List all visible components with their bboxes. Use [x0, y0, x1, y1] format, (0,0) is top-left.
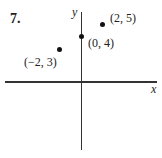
problem-number: 7.	[10, 11, 21, 27]
y-axis-label: y	[72, 5, 77, 20]
y-axis	[81, 12, 83, 150]
point-label: (−2, 3)	[24, 55, 57, 70]
data-point	[79, 34, 84, 39]
data-point	[57, 47, 62, 52]
point-label: (0, 4)	[88, 36, 114, 51]
data-point	[100, 22, 105, 27]
x-axis-label: x	[151, 82, 156, 97]
point-label: (2, 5)	[110, 11, 136, 26]
